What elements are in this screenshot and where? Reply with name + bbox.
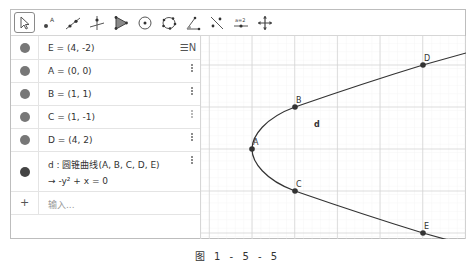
slider-icon: a=2 xyxy=(233,15,249,31)
algebra-view: E = (4, -2) ☰N A = (0, 0) B = (1, 1) C =… xyxy=(11,36,201,239)
point-E[interactable] xyxy=(420,230,426,236)
algebra-row-C[interactable]: C = (1, -1) xyxy=(11,106,200,129)
algebra-row-text: A = (0, 0) xyxy=(48,66,92,76)
more-options-icon[interactable] xyxy=(190,110,194,118)
label-d: d xyxy=(314,120,320,129)
geogebra-window: A a=2 E = (4, xyxy=(10,9,466,239)
circle-tool-button[interactable] xyxy=(134,12,155,33)
reflect-about-line-icon xyxy=(209,15,225,31)
graphics-view[interactable]: A B C D E d xyxy=(201,36,466,239)
conic-five-points-icon xyxy=(161,15,177,31)
point-B[interactable] xyxy=(292,104,298,110)
marble-column xyxy=(11,129,39,151)
label-B: B xyxy=(296,96,302,105)
visibility-toggle[interactable] xyxy=(20,167,30,177)
more-options-icon[interactable] xyxy=(190,64,194,72)
algebra-row-A[interactable]: A = (0, 0) xyxy=(11,60,200,83)
marble-column xyxy=(11,83,39,105)
marble-column xyxy=(11,106,39,128)
toolbar: A a=2 xyxy=(11,10,465,36)
marble-column xyxy=(11,36,39,59)
angle-icon xyxy=(185,15,201,31)
plus-icon[interactable]: + xyxy=(20,196,29,209)
move-arrows-icon xyxy=(257,15,273,31)
conic-result: → -y² + x = 0 xyxy=(48,176,108,186)
algebra-row-text: B = (1, 1) xyxy=(48,89,92,99)
visibility-toggle[interactable] xyxy=(20,66,30,76)
label-E: E xyxy=(424,222,429,231)
line-icon xyxy=(65,15,81,31)
point-A[interactable] xyxy=(249,146,255,152)
point-D[interactable] xyxy=(420,62,426,68)
visibility-toggle[interactable] xyxy=(20,135,30,145)
perpendicular-line-tool-button[interactable] xyxy=(86,12,107,33)
label-D: D xyxy=(424,54,430,63)
algebra-row-B[interactable]: B = (1, 1) xyxy=(11,83,200,106)
svg-text:a=2: a=2 xyxy=(235,17,245,23)
circle-center-icon xyxy=(137,15,153,31)
algebra-input-row[interactable]: + 输入... xyxy=(11,192,200,215)
algebra-row-text: E = (4, -2) xyxy=(48,43,94,53)
algebra-row-text: D = (4, 2) xyxy=(48,135,92,145)
point-tool-button[interactable]: A xyxy=(38,12,59,33)
algebra-row-d[interactable]: d : 圆锥曲线(A, B, C, D, E) → -y² + x = 0 xyxy=(11,152,200,192)
marble-column xyxy=(11,152,39,191)
conic-definition: d : 圆锥曲线(A, B, C, D, E) xyxy=(48,158,160,171)
more-options-icon[interactable] xyxy=(190,156,194,164)
graphics-canvas[interactable]: A B C D E d xyxy=(201,36,466,239)
more-options-icon[interactable] xyxy=(190,133,194,141)
line-tool-button[interactable] xyxy=(62,12,83,33)
algebra-row-E[interactable]: E = (4, -2) ☰N xyxy=(11,36,200,60)
point-C[interactable] xyxy=(292,188,298,194)
visibility-toggle[interactable] xyxy=(20,43,30,53)
marble-column: + xyxy=(11,192,39,214)
cursor-arrow-icon xyxy=(17,15,33,31)
visibility-toggle[interactable] xyxy=(20,89,30,99)
polygon-tool-button[interactable] xyxy=(110,12,131,33)
angle-tool-button[interactable] xyxy=(182,12,203,33)
reflect-tool-button[interactable] xyxy=(206,12,227,33)
algebra-row-text: C = (1, -1) xyxy=(48,112,95,122)
more-options-icon[interactable] xyxy=(190,87,194,95)
point-icon: A xyxy=(41,15,57,31)
label-A: A xyxy=(253,138,259,147)
visibility-toggle[interactable] xyxy=(20,112,30,122)
slider-tool-button[interactable]: a=2 xyxy=(230,12,251,33)
sort-button[interactable]: ☰N xyxy=(178,38,198,56)
algebra-input-field[interactable]: 输入... xyxy=(48,198,75,211)
move-tool-button[interactable] xyxy=(14,12,35,33)
algebra-row-D[interactable]: D = (4, 2) xyxy=(11,129,200,152)
svg-text:A: A xyxy=(50,16,55,23)
conic-tool-button[interactable] xyxy=(158,12,179,33)
marble-column xyxy=(11,60,39,82)
move-graphics-view-tool-button[interactable] xyxy=(254,12,275,33)
sort-icon: ☰N xyxy=(180,42,196,53)
label-C: C xyxy=(296,180,302,189)
polygon-icon xyxy=(113,15,129,31)
figure-caption: 图 1 - 5 - 5 xyxy=(0,248,475,263)
perpendicular-line-icon xyxy=(89,15,105,31)
